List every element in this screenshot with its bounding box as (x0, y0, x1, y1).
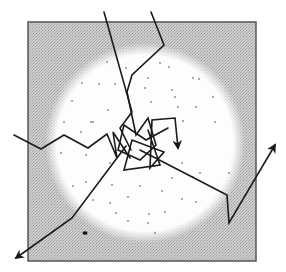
particle-dot (109, 202, 111, 204)
particle-dot (139, 185, 141, 187)
particle-dot (212, 96, 214, 98)
particle-dot (195, 106, 197, 108)
particle-dot (177, 106, 179, 108)
particle-dot (98, 83, 100, 85)
particle-dot (85, 154, 87, 156)
particle-dot (171, 177, 173, 179)
particle-dot (92, 199, 94, 201)
particle-dot (147, 222, 149, 224)
particle-dot (109, 162, 111, 164)
particle-dot (115, 212, 117, 214)
particle-dot (164, 211, 166, 213)
particle-dot (85, 181, 87, 183)
particle-dot (214, 121, 216, 123)
particle-dot (161, 190, 163, 192)
particle-dot (168, 66, 170, 68)
particle-dot (174, 96, 176, 98)
particle-dot (192, 77, 194, 79)
particle-dot (71, 100, 73, 102)
particle-dot (181, 198, 183, 200)
particle-blob (82, 231, 87, 235)
particle-dot (198, 78, 200, 80)
particle-dot (228, 172, 230, 174)
particle-dot (106, 61, 108, 63)
particle-dot (80, 131, 82, 133)
particle-dot (159, 62, 161, 64)
particle-dot (81, 82, 83, 84)
particle-dot (72, 185, 74, 187)
particle-dot (148, 213, 150, 215)
particle-dot (144, 87, 146, 89)
particle-dot (127, 220, 129, 222)
particle-dot (90, 121, 92, 123)
particle-dot (60, 152, 62, 154)
particle-dot (125, 67, 127, 69)
particle-dot (195, 201, 197, 203)
particle-dot (127, 196, 129, 198)
particle-dot (182, 120, 184, 122)
diffusion-diagram (0, 0, 286, 272)
particle-dot (154, 232, 156, 234)
particle-dot (63, 121, 65, 123)
particle-dot (199, 172, 201, 174)
particle-dot (92, 121, 94, 123)
particle-dot (147, 77, 149, 79)
particle-dot (181, 162, 183, 164)
particle-dot (107, 109, 109, 111)
particle-dot (150, 101, 152, 103)
particle-dot (111, 184, 113, 186)
particle-dot (114, 83, 116, 85)
particle-dot (171, 89, 173, 91)
